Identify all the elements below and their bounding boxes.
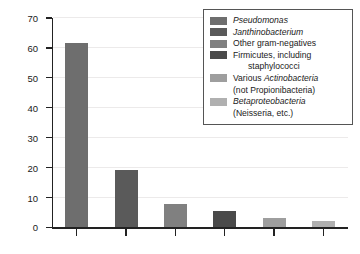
bar — [312, 221, 335, 228]
legend-swatch — [210, 40, 227, 48]
legend-swatch — [210, 17, 227, 25]
y-axis-tick — [46, 137, 52, 138]
y-axis-tick — [46, 197, 52, 198]
y-axis-tick-label: 0 — [16, 222, 38, 233]
bar — [115, 170, 138, 228]
legend-item: Various Actinobacteria — [210, 73, 345, 84]
legend-label: Firmicutes, including — [233, 50, 345, 61]
y-axis-tick-label: 40 — [16, 102, 38, 113]
y-axis-tick-label: 60 — [16, 42, 38, 53]
legend-label: Various Actinobacteria — [233, 73, 345, 84]
x-axis-tick — [323, 229, 324, 236]
legend-label: Other gram-negatives — [233, 38, 345, 49]
y-axis-tick-label: 20 — [16, 162, 38, 173]
y-axis-tick — [46, 107, 52, 108]
legend-item: Betaproteobacteria — [210, 96, 345, 107]
x-axis-tick — [76, 229, 77, 236]
legend-item: Janthinobacterium — [210, 27, 345, 38]
gridline — [53, 167, 348, 168]
legend-item: Pseudomonas — [210, 15, 345, 26]
legend-swatch — [210, 98, 227, 106]
legend-label-continuation: (not Propionibacteria) — [210, 85, 345, 96]
legend-swatch — [210, 74, 227, 82]
y-axis-tick-label: 10 — [16, 192, 38, 203]
bar — [213, 211, 236, 227]
legend-swatch — [210, 51, 227, 59]
x-axis-tick — [175, 229, 176, 236]
legend-label: Janthinobacterium — [233, 27, 345, 38]
y-axis-tick — [46, 167, 52, 168]
x-axis-tick — [224, 229, 225, 236]
legend-swatch — [210, 28, 227, 36]
legend-label: Betaproteobacteria — [233, 96, 345, 107]
bar — [164, 204, 187, 227]
y-axis-tick — [46, 77, 52, 78]
y-axis-tick — [46, 17, 52, 18]
legend-label: Pseudomonas — [233, 15, 345, 26]
y-axis-tick — [46, 47, 52, 48]
x-axis-tick — [125, 229, 126, 236]
x-axis-tick — [273, 229, 274, 236]
y-axis-tick-label: 70 — [16, 13, 38, 24]
bar — [263, 218, 286, 228]
x-axis-line — [52, 227, 348, 229]
y-axis-tick-label: 50 — [16, 72, 38, 83]
legend-label-continuation: staphylococci — [210, 61, 345, 72]
y-axis-tick — [46, 227, 52, 228]
legend-item: Firmicutes, including — [210, 50, 345, 61]
bar — [65, 43, 88, 228]
gridline — [53, 197, 348, 198]
y-axis-tick-label: 30 — [16, 132, 38, 143]
bar-chart: Relative abundance 010203040506070 Pseud… — [0, 0, 360, 254]
legend-item: Other gram-negatives — [210, 38, 345, 49]
legend-entries: PseudomonasJanthinobacteriumOther gram-n… — [210, 15, 345, 118]
gridline — [53, 137, 348, 138]
legend: PseudomonasJanthinobacteriumOther gram-n… — [203, 9, 353, 125]
legend-label-continuation: (Neisseria, etc.) — [210, 108, 345, 119]
